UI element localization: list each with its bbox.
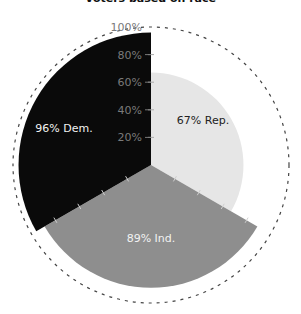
axis-tick-label: 80% [118, 49, 142, 62]
polar-area-chart: 20%40%60%80%100%67% Rep.89% Ind.96% Dem. [0, 0, 301, 314]
wedge-label: 96% Dem. [35, 122, 92, 135]
wedge-label: 67% Rep. [177, 114, 229, 127]
axis-tick-label: 100% [111, 21, 142, 34]
axis-tick-label: 20% [118, 131, 142, 144]
axis-tick-label: 60% [118, 76, 142, 89]
wedge-label: 89% Ind. [127, 232, 176, 245]
axis-tick-label: 40% [118, 104, 142, 117]
